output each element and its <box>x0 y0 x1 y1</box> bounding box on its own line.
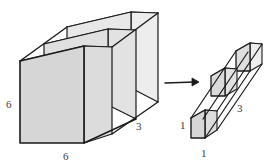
big-box-height-label: 6 <box>6 99 12 110</box>
slice-1-right-face <box>84 46 112 143</box>
transform-arrow <box>165 78 199 86</box>
big-box-depth-label: 3 <box>136 121 142 132</box>
unit-rod-depth-label: 3 <box>237 103 243 114</box>
figure-canvas <box>0 0 275 165</box>
rod-slice-2-front-face <box>211 68 225 96</box>
arrow-head-icon <box>192 78 199 86</box>
unit-rod-group <box>191 43 262 138</box>
slice-1-front-face <box>20 46 84 143</box>
rod-slice-1 <box>191 110 217 138</box>
arrow-shaft <box>165 82 195 83</box>
rod-slice-2-right-face <box>225 68 237 96</box>
geometry-figure: 6 6 3 1 1 3 <box>0 0 275 165</box>
unit-rod-height-label: 1 <box>180 120 186 131</box>
rod-slice-3 <box>236 43 262 71</box>
big-box-width-label: 6 <box>63 151 69 162</box>
unit-rod-width-label: 1 <box>201 148 207 159</box>
big-box-slice-1 <box>20 46 112 143</box>
